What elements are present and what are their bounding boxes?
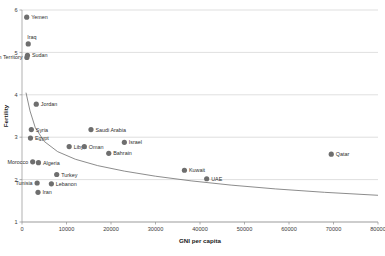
point-marker-morocco[interactable] [30, 159, 35, 164]
point-label-syria: Syria [36, 127, 48, 133]
x-tick-label-0: 0 [20, 226, 23, 232]
data-point[interactable]: Jordan [34, 101, 58, 107]
point-label-qatar: Qatar [336, 151, 350, 157]
point-label-israel: Israel [129, 139, 142, 145]
chart-canvas: 0100002000030000400005000060000700008000… [0, 0, 385, 256]
y-tick-label-4: 4 [14, 92, 17, 98]
point-label-oman: Oman [89, 144, 104, 150]
point-marker-uae[interactable] [204, 176, 209, 181]
point-marker-qatar[interactable] [329, 152, 334, 157]
point-marker-algeria[interactable] [36, 160, 41, 165]
x-tick-label-50000: 50000 [237, 226, 253, 232]
point-label-algeria: Algeria [43, 160, 60, 166]
point-label-morocco: Morocco [8, 159, 29, 165]
point-label-kuwait: Kuwait [189, 167, 206, 173]
y-tick-label-1: 1 [14, 219, 17, 225]
x-tick-label-60000: 60000 [281, 226, 297, 232]
y-axis-title: Fertility [2, 104, 9, 127]
point-marker-egypt[interactable] [28, 135, 33, 140]
x-tick-label-20000: 20000 [103, 226, 119, 232]
point-marker-israel[interactable] [122, 140, 127, 145]
data-point[interactable]: Saudi Arabia [88, 127, 126, 133]
point-label-iraq: Iraq [27, 34, 36, 40]
point-marker-turkey[interactable] [54, 172, 59, 177]
point-marker-iraq[interactable] [26, 41, 31, 46]
point-marker-syria[interactable] [29, 127, 34, 132]
data-point[interactable]: Morocco [8, 159, 36, 165]
data-point[interactable]: Lebanon [49, 181, 77, 187]
data-point[interactable]: Bahrain [106, 150, 132, 156]
data-point[interactable]: UAE [204, 176, 223, 182]
x-tick-label-30000: 30000 [148, 226, 164, 232]
data-point[interactable]: Kuwait [182, 167, 206, 173]
point-marker-jordan[interactable] [34, 102, 39, 107]
point-label-tunisia: Tunisia [15, 180, 32, 186]
point-label-iran: Iran [43, 189, 52, 195]
point-marker-lebanon[interactable] [49, 181, 54, 186]
data-point[interactable]: Yemen [24, 14, 48, 20]
point-label-egypt: Egypt [35, 135, 49, 141]
y-tick-label-6: 6 [14, 7, 17, 13]
point-label-yemen: Yemen [31, 14, 48, 20]
point-marker-yemen[interactable] [24, 15, 29, 20]
point-marker-iran[interactable] [35, 190, 40, 195]
point-label-bahrain: Bahrain [113, 150, 132, 156]
data-point[interactable]: Iran [35, 189, 51, 195]
x-tick-label-40000: 40000 [192, 226, 208, 232]
data-point[interactable]: Syria [29, 127, 48, 133]
data-point[interactable]: Iraq [26, 34, 37, 46]
x-tick-label-10000: 10000 [59, 226, 75, 232]
scatter-chart: 0100002000030000400005000060000700008000… [0, 0, 385, 256]
point-label-jordan: Jordan [41, 101, 57, 107]
data-point[interactable]: Tunisia [15, 180, 39, 186]
data-point[interactable]: Israel [122, 139, 142, 145]
point-label-sudan: Sudan [32, 52, 48, 58]
point-label-uae: UAE [211, 176, 222, 182]
y-tick-label-3: 3 [14, 134, 17, 140]
data-point[interactable]: Oman [82, 144, 104, 150]
point-label-lebanon: Lebanon [56, 181, 77, 187]
data-point[interactable]: Egypt [28, 135, 49, 141]
point-marker-libya[interactable] [67, 144, 72, 149]
point-marker-bahrain[interactable] [106, 151, 111, 156]
point-marker-kuwait[interactable] [182, 168, 187, 173]
point-marker-palestinian-territory[interactable] [24, 55, 29, 60]
point-label-turkey: Turkey [61, 172, 78, 178]
x-tick-label-80000: 80000 [370, 226, 385, 232]
x-tick-label-70000: 70000 [326, 226, 342, 232]
data-point[interactable]: Qatar [329, 151, 350, 157]
point-marker-tunisia[interactable] [35, 180, 40, 185]
x-axis-title: GNI per capita [179, 237, 222, 244]
point-label-palestinian-territory: Palestinian Territory [0, 54, 23, 60]
point-marker-saudi-arabia[interactable] [88, 127, 93, 132]
data-point[interactable]: Turkey [54, 172, 78, 178]
data-point[interactable]: Algeria [36, 160, 60, 166]
point-label-saudi-arabia: Saudi Arabia [95, 127, 126, 133]
point-marker-oman[interactable] [82, 144, 87, 149]
